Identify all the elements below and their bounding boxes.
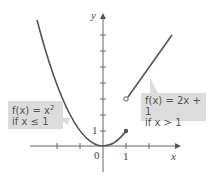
closed-endpoint (124, 129, 128, 133)
x-axis-label: x (171, 150, 176, 162)
y-axis-label: y (91, 9, 96, 21)
left-label-line1: f(x) = x (12, 105, 50, 116)
right-label-line2: if x > 1 (145, 117, 202, 128)
y-arrow-icon (100, 13, 106, 19)
left-label-line2: if x ≤ 1 (12, 116, 59, 127)
right-piece-label: f(x) = 2x + 1 if x > 1 (141, 93, 206, 121)
x-tick-1-label: 1 (123, 150, 129, 162)
origin-label: 0 (94, 149, 100, 161)
left-label-sup: 2 (50, 104, 54, 112)
x-arrow-icon (175, 143, 181, 149)
left-piece-label: f(x) = x2 if x ≤ 1 (8, 101, 63, 129)
right-label-line1: f(x) = 2x + 1 (145, 95, 202, 117)
graph-canvas (0, 0, 214, 181)
open-endpoint (124, 97, 128, 101)
y-tick-1-label: 1 (92, 124, 98, 136)
